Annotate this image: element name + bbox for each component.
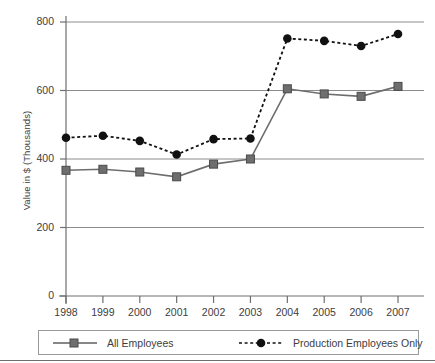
x-tick-label: 2004 <box>267 306 307 318</box>
x-tick-label: 2000 <box>120 306 160 318</box>
legend-item-all-employees: All Employees <box>51 331 174 354</box>
x-tick-label: 1998 <box>46 306 86 318</box>
gridlines <box>66 22 424 228</box>
x-tick-label: 2003 <box>230 306 270 318</box>
y-tick-label: 400 <box>20 152 54 164</box>
legend-swatch-solid-square <box>51 336 99 350</box>
bottom-divider <box>0 360 435 361</box>
y-tick-label: 800 <box>20 15 54 27</box>
legend-label-all-employees: All Employees <box>107 337 174 349</box>
series-all-employees <box>62 82 402 180</box>
x-tick-label: 2007 <box>378 306 418 318</box>
line-chart: Value in $ (Thousands) 0200400600800 199… <box>0 0 435 363</box>
legend-swatch-dotted-circle <box>237 336 285 350</box>
y-tick-label: 600 <box>20 84 54 96</box>
x-tick-label: 2005 <box>304 306 344 318</box>
x-tick-label: 2002 <box>194 306 234 318</box>
y-tick-label: 200 <box>20 221 54 233</box>
legend-label-production-employees-only: Production Employees Only <box>293 337 423 349</box>
x-tick-label: 2001 <box>157 306 197 318</box>
x-axis-ticks <box>66 296 398 303</box>
legend-item-production-employees-only: Production Employees Only <box>237 331 423 354</box>
series-production-employees-only <box>62 30 403 159</box>
chart-legend: All Employees Production Employees Only <box>38 330 419 355</box>
y-axis-ticks <box>60 22 66 296</box>
x-tick-label: 2006 <box>341 306 381 318</box>
y-tick-label: 0 <box>20 289 54 301</box>
x-tick-label: 1999 <box>83 306 123 318</box>
